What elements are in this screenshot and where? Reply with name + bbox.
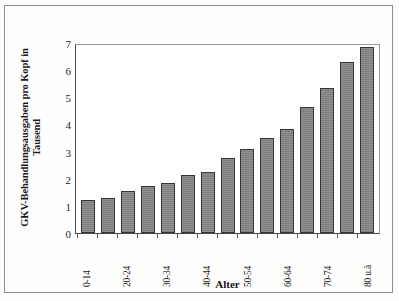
x-tick-mark xyxy=(337,234,338,238)
bar-slot xyxy=(118,45,138,233)
bar[interactable] xyxy=(360,47,374,233)
bar[interactable] xyxy=(81,200,95,233)
bar-slot xyxy=(178,45,198,233)
x-label-slot xyxy=(97,239,117,281)
bar[interactable] xyxy=(121,191,135,233)
x-tick-mark xyxy=(157,234,158,238)
bar-slot xyxy=(78,45,98,233)
chart-page: GKV-Behandlungsausgaben pro Kopf in Taus… xyxy=(0,0,399,301)
bar[interactable] xyxy=(201,172,215,233)
x-label-slot: 40-44 xyxy=(197,239,217,281)
y-axis-title-line2: Tausend xyxy=(31,30,43,245)
bar-slot xyxy=(297,45,317,233)
plot-area xyxy=(75,44,380,234)
y-axis-tick-label: 3 xyxy=(55,147,71,159)
x-label-slot: 30-34 xyxy=(157,239,177,281)
bar[interactable] xyxy=(280,129,294,234)
x-tick-mark xyxy=(137,234,138,238)
bar-slot xyxy=(138,45,158,233)
bar-slot xyxy=(317,45,337,233)
bar-slot xyxy=(218,45,238,233)
x-label-slot xyxy=(338,239,358,281)
x-tick-mark xyxy=(77,234,78,238)
bar[interactable] xyxy=(260,138,274,233)
bar-slot xyxy=(337,45,357,233)
x-tick-mark xyxy=(177,234,178,238)
x-tick-mark xyxy=(357,234,358,238)
bar[interactable] xyxy=(221,158,235,233)
y-axis-tick-label: 5 xyxy=(55,92,71,104)
x-tick-mark xyxy=(297,234,298,238)
bar[interactable] xyxy=(141,186,155,234)
x-label-slot xyxy=(258,239,278,281)
x-tick-mark xyxy=(317,234,318,238)
y-axis-tick-label: 7 xyxy=(55,38,71,50)
bar-slot xyxy=(277,45,297,233)
bar-slot xyxy=(257,45,277,233)
bar-series xyxy=(76,45,379,233)
bar[interactable] xyxy=(181,175,195,233)
bar-slot xyxy=(238,45,258,233)
x-label-slot: 20-24 xyxy=(117,239,137,281)
bar-slot xyxy=(357,45,377,233)
x-tick-mark xyxy=(217,234,218,238)
x-label-slot: 60-64 xyxy=(278,239,298,281)
x-label-slot xyxy=(298,239,318,281)
x-label-slot: 70-74 xyxy=(318,239,338,281)
y-axis-tick-label: 1 xyxy=(55,201,71,213)
y-axis-title: GKV-Behandlungsausgaben pro Kopf in Taus… xyxy=(19,30,42,245)
x-label-slot: 50-54 xyxy=(238,239,258,281)
bar[interactable] xyxy=(320,88,334,233)
bar[interactable] xyxy=(161,183,175,233)
x-tick-mark xyxy=(117,234,118,238)
x-label-slot: 0-14 xyxy=(77,239,97,281)
x-axis-tick-labels: 0-1420-2430-3440-4450-5460-6470-7480 u.ä xyxy=(75,239,380,281)
scanned-page-frame: GKV-Behandlungsausgaben pro Kopf in Taus… xyxy=(4,5,393,293)
bar-slot xyxy=(198,45,218,233)
bar[interactable] xyxy=(240,149,254,233)
x-label-slot xyxy=(137,239,157,281)
bar[interactable] xyxy=(300,107,314,233)
bar[interactable] xyxy=(340,62,354,233)
y-axis-tick-labels: 76543210 xyxy=(55,38,71,241)
y-axis-tick-label: 0 xyxy=(55,228,71,240)
y-axis-tick-label: 6 xyxy=(55,65,71,77)
x-tick-mark xyxy=(97,234,98,238)
bar-slot xyxy=(158,45,178,233)
y-axis-tick-label: 4 xyxy=(55,119,71,131)
x-tick-mark xyxy=(257,234,258,238)
bar[interactable] xyxy=(101,198,115,233)
y-axis-tick-label: 2 xyxy=(55,174,71,186)
x-label-slot xyxy=(177,239,197,281)
x-label-slot: 80 u.ä xyxy=(358,239,378,281)
x-label-slot xyxy=(217,239,237,281)
y-axis-title-line1: GKV-Behandlungsausgaben pro Kopf in xyxy=(19,48,30,226)
x-tick-mark xyxy=(277,234,278,238)
bar-slot xyxy=(98,45,118,233)
x-tick-mark xyxy=(197,234,198,238)
x-axis-title: Alter xyxy=(75,278,380,290)
x-tick-mark xyxy=(237,234,238,238)
